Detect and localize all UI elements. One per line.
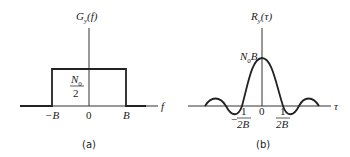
panel-a-rect-psd [20, 69, 146, 106]
panel-a-tick-zero: 0 [86, 109, 92, 121]
panel-b-tick-pos-half-inv-b: 1 2B [276, 105, 290, 130]
panel-a-tick-neg-b: −B [45, 109, 59, 121]
panel-b: Ry(τ) N0B τ 0 − 1 2B 1 2B (b) [188, 10, 339, 150]
panel-a-y-label: Gy(f) [76, 10, 98, 25]
panel-b-y-label: Ry(τ) [250, 10, 272, 25]
panel-a-x-label: f [161, 100, 166, 112]
panel-b-tick-neg-den: 2B [237, 118, 250, 130]
panel-b-tick-neg-num: 1 [241, 105, 247, 117]
panel-a-tick-b: B [123, 109, 130, 121]
panel-b-x-label: τ [334, 100, 339, 112]
panel-b-tick-pos-den: 2B [276, 118, 289, 130]
panel-b-caption: (b) [256, 139, 270, 150]
diagram-canvas: Gy(f) N0 2 f −B 0 B (a) Ry(τ) N0B τ 0 − … [0, 0, 350, 157]
panel-b-tick-neg-half-inv-b: − 1 2B [231, 105, 251, 130]
panel-a: Gy(f) N0 2 f −B 0 B (a) [20, 10, 166, 150]
panel-b-tick-zero: 0 [259, 105, 265, 117]
panel-a-caption: (a) [82, 139, 96, 150]
panel-a-height-denominator: 2 [73, 87, 79, 99]
panel-b-tick-pos-num: 1 [280, 105, 286, 117]
